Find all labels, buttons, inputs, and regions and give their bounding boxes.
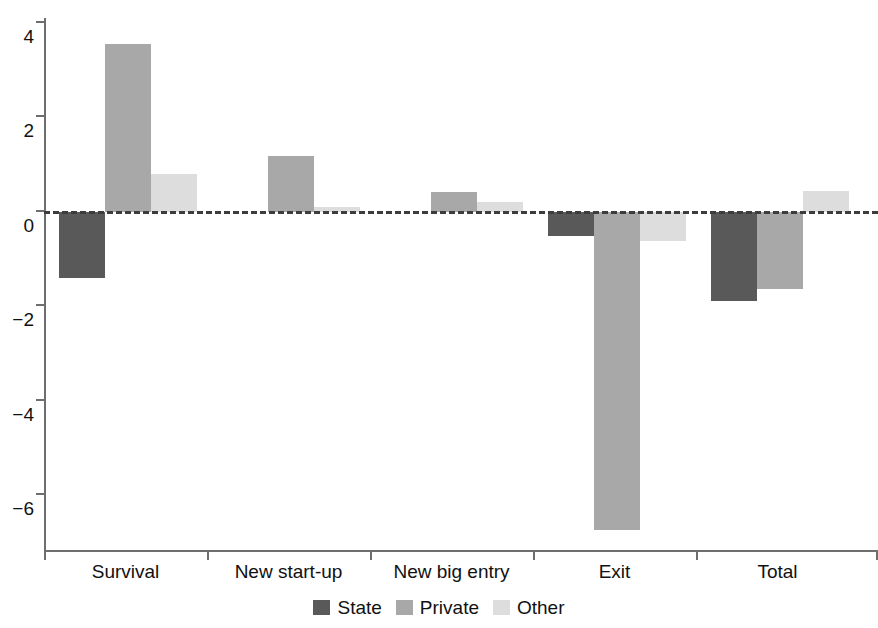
y-tick-label: −4 bbox=[4, 405, 34, 424]
legend-swatch-icon bbox=[493, 600, 510, 615]
y-tick-label: 2 bbox=[4, 121, 34, 140]
y-axis-labels: 4 2 0 −2 −4 −6 bbox=[0, 18, 34, 552]
bar bbox=[757, 212, 803, 289]
x-axis-category-label: Survival bbox=[44, 561, 207, 583]
legend-label: Other bbox=[517, 598, 565, 617]
x-axis-separator bbox=[533, 550, 535, 560]
bar-chart: 4 2 0 −2 −4 −6 SurvivalNew start-upNew b… bbox=[0, 0, 878, 628]
y-axis-tick bbox=[36, 399, 45, 401]
legend-item: Private bbox=[396, 598, 479, 617]
legend-swatch-icon bbox=[396, 600, 413, 615]
y-tick-label: −2 bbox=[4, 310, 34, 329]
x-axis-separator bbox=[207, 550, 209, 560]
y-axis-tick bbox=[36, 115, 45, 117]
y-tick-label: 0 bbox=[4, 216, 34, 235]
legend-label: State bbox=[337, 598, 381, 617]
x-axis-category-label: New start-up bbox=[207, 561, 370, 583]
bar bbox=[803, 191, 849, 212]
zero-baseline bbox=[44, 211, 878, 214]
y-axis-tick bbox=[36, 493, 45, 495]
y-axis-line bbox=[44, 18, 46, 552]
bar bbox=[594, 212, 640, 530]
bar bbox=[151, 174, 197, 212]
y-tick-label: −6 bbox=[4, 499, 34, 518]
legend-swatch-icon bbox=[313, 600, 330, 615]
y-axis-tick bbox=[36, 21, 45, 23]
plot-area bbox=[44, 18, 878, 552]
x-axis-separator bbox=[44, 550, 46, 560]
y-axis-tick bbox=[36, 304, 45, 306]
x-axis-category-label: Total bbox=[696, 561, 859, 583]
bar bbox=[548, 212, 594, 236]
bar bbox=[59, 212, 105, 278]
legend-item: Other bbox=[493, 598, 565, 617]
x-axis-line bbox=[44, 550, 878, 552]
y-tick-label: 4 bbox=[4, 27, 34, 46]
bar bbox=[431, 192, 477, 212]
x-axis-separator bbox=[370, 550, 372, 560]
bar bbox=[640, 212, 686, 241]
x-axis-separator bbox=[696, 550, 698, 560]
chart-legend: StatePrivateOther bbox=[0, 598, 878, 617]
legend-label: Private bbox=[420, 598, 479, 617]
bar bbox=[711, 212, 757, 301]
x-axis-category-label: Exit bbox=[533, 561, 696, 583]
bar bbox=[105, 44, 151, 212]
bar bbox=[268, 156, 314, 212]
legend-item: State bbox=[313, 598, 381, 617]
x-axis-category-label: New big entry bbox=[370, 561, 533, 583]
